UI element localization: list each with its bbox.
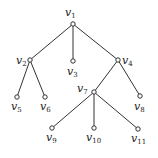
- edge-v1-v2: [30, 24, 73, 60]
- label-v6: v6: [40, 100, 51, 114]
- nodes: [15, 22, 142, 131]
- label-v5: v5: [11, 100, 22, 114]
- edge-v4-v7: [94, 60, 118, 92]
- tree-diagram: v1v2v3v4v5v6v7v8v9v10v11: [0, 0, 158, 158]
- label-v7: v7: [77, 82, 88, 96]
- label-v9: v9: [46, 131, 57, 145]
- labels: v1v2v3v4v5v6v7v8v9v10v11: [11, 6, 146, 146]
- node-v6: [43, 95, 47, 99]
- node-v10: [92, 126, 96, 130]
- node-v7: [92, 90, 96, 94]
- node-v11: [136, 127, 140, 131]
- node-v2: [28, 58, 32, 62]
- edge-v2-v6: [30, 60, 45, 97]
- label-v4: v4: [122, 54, 133, 68]
- label-v11: v11: [131, 132, 146, 146]
- edge-v1-v4: [73, 24, 118, 60]
- label-v8: v8: [134, 100, 145, 114]
- node-v4: [116, 58, 120, 62]
- label-v1: v1: [65, 6, 76, 20]
- node-v3: [71, 59, 75, 63]
- label-v3: v3: [67, 65, 78, 79]
- edge-v7-v9: [52, 92, 94, 128]
- node-v8: [138, 94, 142, 98]
- edges: [17, 24, 140, 129]
- edge-v7-v11: [94, 92, 138, 129]
- node-v5: [15, 95, 19, 99]
- node-v1: [71, 22, 75, 26]
- label-v10: v10: [86, 131, 101, 145]
- label-v2: v2: [16, 54, 27, 68]
- node-v9: [50, 126, 54, 130]
